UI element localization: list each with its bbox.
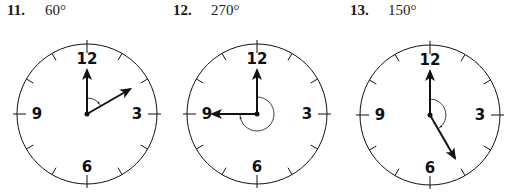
tick-mark xyxy=(141,79,148,83)
tick-mark xyxy=(395,169,399,176)
tick-mark xyxy=(52,168,56,175)
center-dot xyxy=(255,112,260,117)
tick-mark xyxy=(26,145,33,149)
arc-arrow-icon xyxy=(98,102,100,104)
clock-number-6: 6 xyxy=(425,159,435,177)
clock-number-3: 3 xyxy=(302,105,312,123)
tick-mark xyxy=(196,79,203,83)
clock-number-6: 6 xyxy=(82,158,92,176)
center-dot xyxy=(85,112,90,117)
clock-number-3: 3 xyxy=(132,105,142,123)
tick-mark xyxy=(52,53,56,60)
angle-arc xyxy=(430,99,446,129)
clock-number-6: 6 xyxy=(252,158,262,176)
tick-mark xyxy=(461,54,465,61)
tick-mark xyxy=(196,145,203,149)
arrowhead-icon xyxy=(446,147,456,160)
clock-hand xyxy=(430,115,455,158)
tick-mark xyxy=(311,79,318,83)
tick-mark xyxy=(26,79,33,83)
tick-mark xyxy=(118,53,122,60)
tick-mark xyxy=(118,168,122,175)
tick-mark xyxy=(461,169,465,176)
clock-12: 12369 xyxy=(183,40,331,188)
clock-number-9: 9 xyxy=(375,106,385,124)
clock-number-12: 12 xyxy=(420,51,441,69)
tick-mark xyxy=(484,146,491,150)
tick-mark xyxy=(222,168,226,175)
clock-11: 12369 xyxy=(13,40,161,188)
arc-arrow-icon xyxy=(240,117,242,119)
center-dot xyxy=(428,113,433,118)
clock-13: 12369 xyxy=(356,41,504,189)
clock-number-3: 3 xyxy=(475,106,485,124)
arrowhead-icon xyxy=(119,88,132,98)
tick-mark xyxy=(395,54,399,61)
tick-mark xyxy=(369,80,376,84)
tick-mark xyxy=(141,145,148,149)
clock-diagrams: 123691236912369 xyxy=(0,0,507,195)
tick-mark xyxy=(288,168,292,175)
tick-mark xyxy=(484,80,491,84)
clock-number-9: 9 xyxy=(32,105,42,123)
tick-mark xyxy=(222,53,226,60)
clock-number-12: 12 xyxy=(77,50,98,68)
tick-mark xyxy=(288,53,292,60)
arc-arrow-icon xyxy=(440,126,442,128)
clock-hand xyxy=(87,89,130,114)
tick-mark xyxy=(369,146,376,150)
tick-mark xyxy=(311,145,318,149)
clock-number-12: 12 xyxy=(247,50,268,68)
